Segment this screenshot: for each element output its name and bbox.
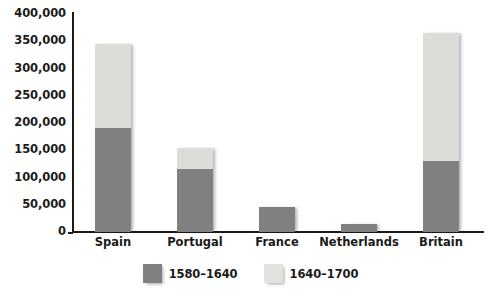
- bar-france[interactable]: [259, 207, 295, 232]
- x-axis-label-netherlands: Netherlands: [319, 236, 399, 250]
- bar-segment-1580-1640: [341, 224, 377, 232]
- x-axis-label-spain: Spain: [95, 236, 131, 250]
- y-axis-tick-label: 350,000: [0, 36, 66, 48]
- legend-label: 1640–1700: [290, 267, 359, 281]
- x-axis-label-france: France: [255, 236, 298, 250]
- bar-segment-1640-1700: [177, 148, 213, 170]
- x-axis-category-labels: SpainPortugalFranceNetherlandsBritain: [72, 236, 482, 254]
- bar-segment-1580-1640: [259, 207, 295, 232]
- x-axis-label-portugal: Portugal: [167, 236, 223, 250]
- y-axis-tick-label: 400,000: [0, 8, 66, 20]
- y-axis-tick-mark: [68, 232, 73, 234]
- dark-gray-swatch: [143, 264, 162, 283]
- y-axis-tick-label: 0: [0, 226, 66, 238]
- bar-segment-1580-1640: [177, 169, 213, 232]
- bar-segment-1640-1700: [95, 44, 131, 128]
- bar-portugal[interactable]: [177, 148, 213, 232]
- stacked-bar-chart: 050,000100,000150,000200,000250,000300,0…: [0, 0, 501, 298]
- y-axis-tick-label: 150,000: [0, 145, 66, 157]
- legend-item-1[interactable]: 1580–1640: [143, 264, 238, 283]
- plot-area: [72, 14, 482, 232]
- bar-netherlands[interactable]: [341, 224, 377, 232]
- chart-legend: 1580–16401640–1700: [0, 264, 501, 283]
- legend-item-2[interactable]: 1640–1700: [264, 264, 359, 283]
- bar-segment-1580-1640: [423, 161, 459, 232]
- bar-spain[interactable]: [95, 44, 131, 232]
- x-axis-label-britain: Britain: [419, 236, 463, 250]
- y-axis-tick-label: 50,000: [0, 199, 66, 211]
- bar-britain[interactable]: [423, 33, 459, 232]
- y-axis-tick-label: 300,000: [0, 63, 66, 75]
- bar-segment-1640-1700: [423, 33, 459, 161]
- legend-label: 1580–1640: [169, 267, 238, 281]
- light-gray-swatch: [264, 264, 283, 283]
- y-axis-tick-label: 100,000: [0, 172, 66, 184]
- y-axis-tick-label: 200,000: [0, 117, 66, 129]
- y-axis-tick-label: 250,000: [0, 90, 66, 102]
- bar-segment-1580-1640: [95, 128, 131, 232]
- y-axis-tick-labels: 050,000100,000150,000200,000250,000300,0…: [0, 14, 66, 232]
